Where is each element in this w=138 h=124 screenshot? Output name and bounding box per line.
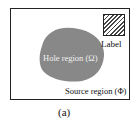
hole-region-label: Hole region (Ω): [43, 53, 97, 63]
source-region-label: Source region (Φ): [65, 86, 126, 96]
figure-caption: (a): [58, 106, 70, 118]
label-hatched-box: [103, 14, 125, 36]
label-text: Label: [101, 39, 122, 49]
